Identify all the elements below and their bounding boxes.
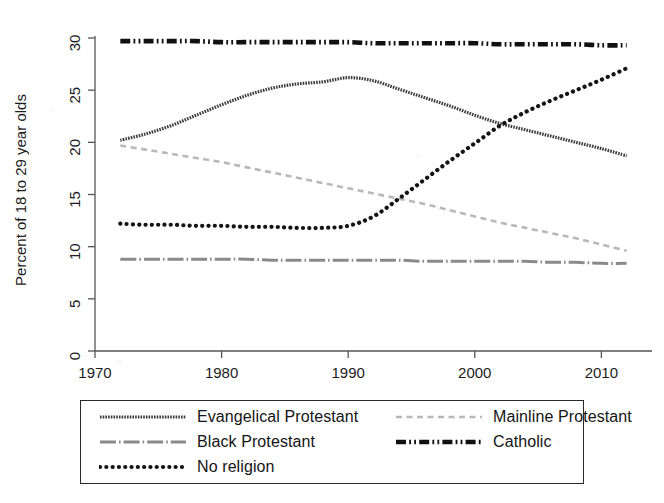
x-tick-label: 2010 <box>585 364 618 381</box>
series-line-no-religion <box>120 68 626 228</box>
x-tick-label: 1970 <box>78 364 111 381</box>
chart-legend: Evangelical ProtestantMainline Protestan… <box>80 400 584 484</box>
series-line-evangelical-protestant <box>120 78 626 156</box>
y-tick-label: 25 <box>66 87 83 104</box>
legend-key-black-protestant <box>99 435 187 449</box>
y-tick-label: 10 <box>66 243 83 260</box>
series-line-mainline-protestant <box>120 145 626 250</box>
legend-item-no-religion[interactable]: No religion <box>99 458 395 476</box>
y-tick-label: 0 <box>66 352 83 360</box>
y-axis-label: Percent of 18 to 29 year olds <box>12 94 29 286</box>
legend-key-mainline-protestant <box>395 410 483 424</box>
legend-label: Catholic <box>493 433 552 451</box>
legend-label: No religion <box>197 458 275 476</box>
y-tick-label: 5 <box>66 300 83 308</box>
legend-key-catholic <box>395 435 483 449</box>
y-tick-label: 20 <box>66 139 83 156</box>
legend-label: Black Protestant <box>197 433 315 451</box>
data-series-group <box>120 41 626 263</box>
legend-item-black-protestant[interactable]: Black Protestant <box>99 433 395 451</box>
y-tick-label: 15 <box>66 191 83 208</box>
legend-item-evangelical-protestant[interactable]: Evangelical Protestant <box>99 408 395 426</box>
y-tick-label: 30 <box>66 35 83 52</box>
x-axis-ticks: 19701980199020002010 <box>78 351 618 381</box>
legend-item-mainline-protestant[interactable]: Mainline Protestant <box>395 408 632 426</box>
legend-label: Mainline Protestant <box>493 408 632 426</box>
legend-item-catholic[interactable]: Catholic <box>395 433 632 451</box>
legend-key-evangelical-protestant <box>99 410 187 424</box>
series-line-black-protestant <box>120 259 626 263</box>
y-axis-ticks: 051015202530 <box>66 35 95 361</box>
x-tick-label: 1990 <box>331 364 364 381</box>
legend-key-no-religion <box>99 460 187 474</box>
x-tick-label: 1980 <box>205 364 238 381</box>
legend-label: Evangelical Protestant <box>197 408 358 426</box>
series-line-catholic <box>120 41 626 45</box>
figure-panel: 051015202530 19701980199020002010 Percen… <box>0 0 664 503</box>
x-tick-label: 2000 <box>458 364 491 381</box>
